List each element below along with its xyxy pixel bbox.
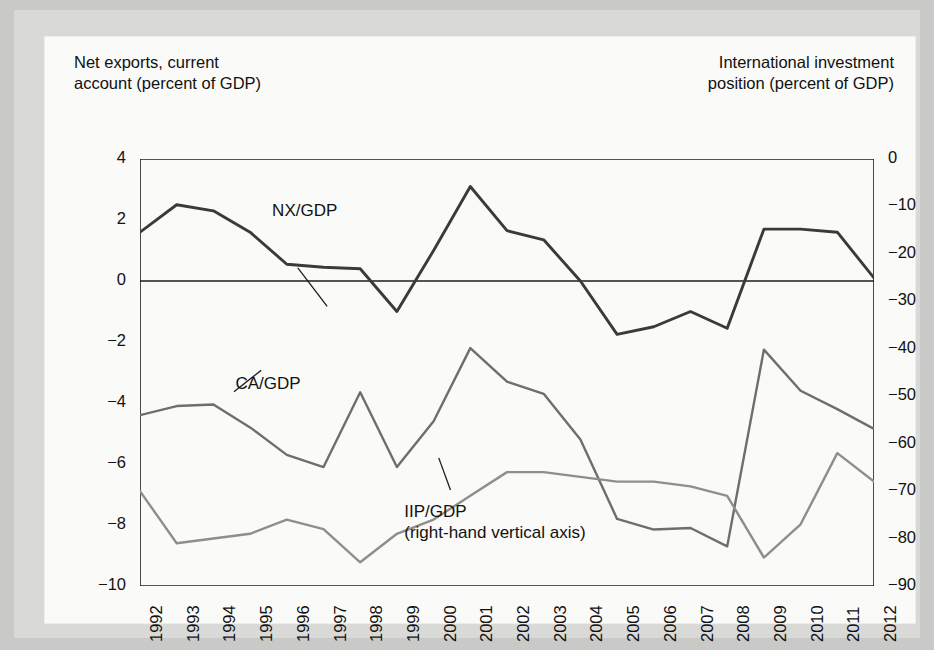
page-background: Net exports, current account (percent of…: [0, 0, 934, 650]
y2-axis-tick-label: −10: [888, 195, 916, 214]
x-axis-tick-label: 1993: [184, 605, 203, 642]
x-axis-tick-label: 2002: [514, 605, 533, 642]
y-axis-tick-label: −8: [82, 514, 126, 533]
y2-axis-tick-label: −90: [888, 575, 916, 594]
x-axis-tick-label: 2003: [551, 605, 570, 642]
y2-axis-tick-label: −50: [888, 385, 916, 404]
y2-axis-tick-label: −60: [888, 433, 916, 452]
y2-axis-tick-label: −30: [888, 290, 916, 309]
x-axis-tick-label: 1997: [331, 605, 350, 642]
x-axis-tick-label: 2008: [734, 605, 753, 642]
series-annotation-ca-label: CA/GDP: [235, 373, 300, 394]
y2-axis-tick-label: −40: [888, 338, 916, 357]
x-axis-tick-label: 2009: [771, 605, 790, 642]
right-axis-title: International investment position (perce…: [708, 52, 894, 94]
chart-figure: Net exports, current account (percent of…: [44, 36, 916, 624]
y-axis-tick-label: 0: [82, 270, 126, 289]
x-axis-tick-label: 1999: [404, 605, 423, 642]
y-axis-tick-label: 4: [82, 148, 126, 167]
series-annotation-nx-label: NX/GDP: [272, 200, 337, 221]
y-axis-tick-label: −4: [82, 392, 126, 411]
x-axis-tick-label: 1998: [367, 605, 386, 642]
x-axis-tick-label: 2006: [661, 605, 680, 642]
y-axis-tick-label: −6: [82, 453, 126, 472]
x-axis-tick-label: 2010: [808, 605, 827, 642]
x-axis-tick-label: 2005: [624, 605, 643, 642]
x-axis-tick-label: 1995: [257, 605, 276, 642]
series-annotation-iip-label: IIP/GDP (right-hand vertical axis): [404, 501, 585, 543]
y-axis-tick-label: 2: [82, 209, 126, 228]
x-axis-tick-label: 1992: [147, 605, 166, 642]
y-axis-tick-label: −2: [82, 331, 126, 350]
left-axis-title: Net exports, current account (percent of…: [74, 52, 261, 94]
x-axis-tick-label: 2000: [441, 605, 460, 642]
page-paper: Net exports, current account (percent of…: [14, 10, 920, 638]
y2-axis-tick-label: −80: [888, 528, 916, 547]
x-axis-tick-label: 2001: [477, 605, 496, 642]
y2-axis-tick-label: −20: [888, 243, 916, 262]
y2-axis-tick-label: −70: [888, 480, 916, 499]
series-line-nx-gdp: [140, 186, 874, 334]
x-axis-tick-label: 2011: [844, 607, 863, 642]
x-axis-tick-label: 1996: [294, 605, 313, 642]
x-axis-tick-label: 2004: [587, 605, 606, 642]
y2-axis-tick-label: 0: [888, 148, 897, 167]
x-axis-tick-label: 1994: [220, 605, 239, 642]
x-axis-tick-label: 2012: [881, 605, 900, 642]
y-axis-tick-label: −10: [82, 575, 126, 594]
x-axis-tick-label: 2007: [698, 605, 717, 642]
